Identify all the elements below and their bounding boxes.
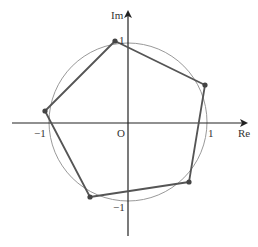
y-axis-label: Im [111,9,124,21]
tick-label-y-neg: −1 [113,201,125,213]
x-axis-label: Re [238,127,250,139]
tick-label-y-pos: 1 [119,34,125,46]
tick-label-x-pos: 1 [208,127,214,139]
origin-label: O [117,127,125,139]
complex-plane-diagram: Im Re O 1 −1 1 −1 [0,0,258,247]
vertex-point [202,82,207,87]
tick-label-x-neg: −1 [34,127,46,139]
vertex-point [42,108,47,113]
pentagon [45,41,205,197]
vertex-point [87,194,92,199]
vertex-point [112,38,117,43]
vertex-point [186,179,191,184]
